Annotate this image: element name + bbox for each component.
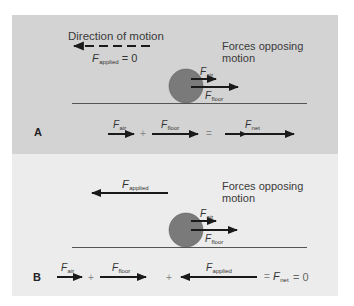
panel-a-opposing-forces-label: Forces opposing motion	[222, 40, 303, 64]
panel-b-eq-plus-2: +	[166, 272, 172, 283]
panel-a-label: A	[34, 126, 42, 138]
panel-b-label: B	[33, 271, 41, 283]
panel-b-opposing-forces-label: Forces opposing motion	[222, 180, 303, 204]
panel-b-applied-force-label: Fapplied	[122, 178, 149, 191]
panel-a-eq-net-label: Fnet	[245, 119, 260, 131]
panel-a-eq-floor-label: Ffloor	[161, 119, 179, 131]
panel-b-eq-air-label: Fair	[61, 262, 74, 274]
panel-b-eq-equals-zero: = 0	[293, 271, 309, 283]
panel-b-eq-equals-1: =	[264, 271, 270, 282]
panel-b-ball-air-label: Fair	[200, 208, 213, 220]
panel-a-eq-equals: =	[206, 128, 212, 139]
panel-b-eq-plus-1: +	[88, 272, 94, 283]
panel-b-ball-floor-label: Ffloor	[205, 233, 223, 245]
direction-of-motion-label: Direction of motion	[68, 30, 164, 42]
panel-a-eq-air-label: Fair	[113, 119, 126, 131]
panel-b-eq-floor-label: Ffloor	[112, 262, 130, 274]
panel-a-applied-force-label: Fapplied = 0	[92, 52, 137, 65]
panel-a-ball-air-label: Fair	[200, 66, 213, 78]
panel-a-eq-plus: +	[140, 128, 146, 139]
panel-b-eq-applied-label: Fapplied	[206, 262, 232, 274]
panel-b-eq-net-label: Fnet	[273, 270, 289, 283]
panel-a-ball-floor-label: Ffloor	[205, 90, 223, 102]
